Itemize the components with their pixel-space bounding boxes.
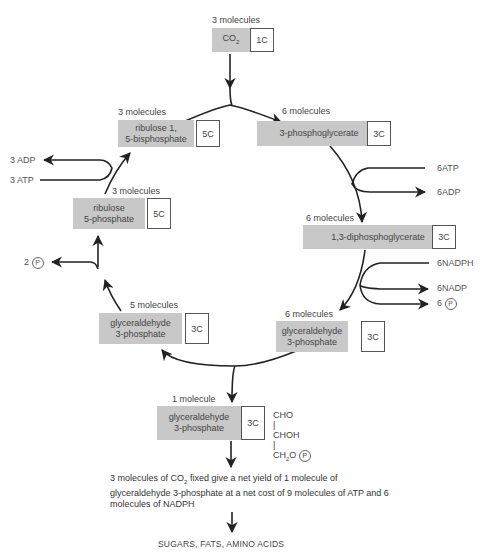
phosphate-output-left: 2 P <box>24 257 44 269</box>
g3p-right-line1: glyceraldehyde <box>282 326 343 337</box>
phosphate-icon: P <box>445 298 457 310</box>
g3p-right-line2: 3-phosphate <box>287 337 337 348</box>
g3p-left-count: 5 molecules <box>130 300 178 310</box>
r5p-carbons: 5C <box>147 198 171 229</box>
r5p-box: ribulose 5-phosphate <box>73 198 145 229</box>
summary-note: 3 molecules of CO2 fixed give a net yiel… <box>110 473 400 510</box>
g3p-structure: CHO | CHOH | CH2O P <box>273 410 311 464</box>
co2-label: CO2 <box>223 33 240 48</box>
g3p-left-line1: glyceraldehyde <box>110 318 171 329</box>
co2-count: 3 molecules <box>212 15 260 25</box>
nadph-input: 6NADPH <box>437 258 474 268</box>
dpg-count: 6 molecules <box>306 213 354 223</box>
r5p-line2: 5-phosphate <box>84 214 134 225</box>
phosphate-icon: P <box>299 450 311 462</box>
rubp-count: 3 molecules <box>118 107 166 117</box>
arrows-layer <box>0 0 489 554</box>
g3p-right-box: glyceraldehyde 3-phosphate <box>276 321 348 352</box>
atp-input-right: 6ATP <box>437 163 459 173</box>
final-products: SUGARS, FATS, AMINO ACIDS <box>158 539 284 549</box>
g3p-left-box: glyceraldehyde 3-phosphate <box>99 313 182 344</box>
g3p-right-carbons: 3C <box>361 321 385 352</box>
g3p-left-carbons: 3C <box>185 313 209 344</box>
co2-box: CO2 <box>212 28 250 52</box>
g3p-out-line1: glyceraldehyde <box>169 412 230 423</box>
nadp-output: 6NADP <box>437 283 467 293</box>
g3p-left-line2: 3-phosphate <box>115 329 165 340</box>
adp-output-right: 6ADP <box>437 187 461 197</box>
pga-carbons: 3C <box>367 121 391 146</box>
rubp-carbons: 5C <box>196 120 220 147</box>
g3p-out-box: glyceraldehyde 3-phosphate <box>157 406 241 440</box>
rubp-line1: ribulose 1, <box>135 123 177 134</box>
r5p-line1: ribulose <box>93 203 125 214</box>
atp-input-left: 3 ATP <box>10 175 34 185</box>
g3p-out-line2: 3-phosphate <box>174 423 224 434</box>
co2-carbons: 1C <box>250 28 274 52</box>
phosphate-icon: P <box>32 257 44 269</box>
rubp-line2: 5-bisphosphate <box>125 134 187 145</box>
g3p-right-count: 6 molecules <box>285 309 333 319</box>
rubp-box: ribulose 1, 5-bisphosphate <box>118 120 194 147</box>
pga-count: 6 molecules <box>282 106 330 116</box>
g3p-out-carbons: 3C <box>241 406 265 440</box>
g3p-out-count: 1 molecule <box>172 394 216 404</box>
dpg-carbons: 3C <box>432 225 456 249</box>
adp-output-left: 3 ADP <box>10 155 36 165</box>
dpg-box: 1,3-diphosphoglycerate <box>303 225 453 249</box>
r5p-count: 3 molecules <box>112 186 160 196</box>
pga-box: 3-phosphoglycerate <box>257 121 381 146</box>
phosphate-output-right: 6 P <box>437 298 457 310</box>
